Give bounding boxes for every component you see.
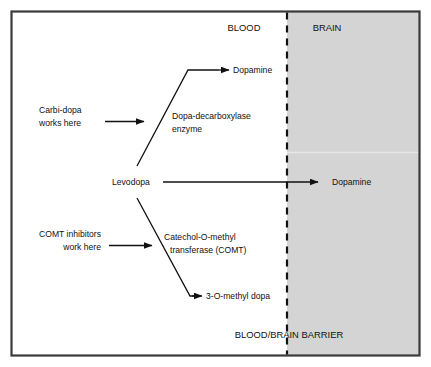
comt-inhibitors-annotation-line2: work here (62, 242, 101, 252)
pathway-diagram: BLOOD BRAIN Dopamine Carbi-dopa works he… (0, 0, 431, 367)
blood-region-label: BLOOD (228, 22, 261, 33)
comt-inhibitors-annotation-line1: COMT inhibitors (39, 229, 101, 239)
dopamine-blood-label: Dopamine (233, 65, 272, 75)
methyl-dopa-label: 3-O-methyl dopa (206, 291, 270, 301)
comt-enzyme-label-line1: Catechol-O-methyl (164, 232, 236, 242)
blood-brain-barrier-caption: BLOOD/BRAIN BARRIER (235, 329, 344, 340)
comt-enzyme-label-line2: transferase (COMT) (170, 245, 247, 255)
carbidopa-annotation-line1: Carbi-dopa (39, 105, 82, 115)
brain-region-label: BRAIN (313, 22, 342, 33)
figure-root: BLOOD BRAIN Dopamine Carbi-dopa works he… (0, 0, 431, 367)
levodopa-label: Levodopa (112, 177, 150, 187)
decarboxylase-enzyme-label-line2: enzyme (172, 124, 202, 134)
dopamine-brain-label: Dopamine (332, 177, 371, 187)
decarboxylase-enzyme-label-line1: Dopa-decarboxylase (172, 111, 251, 121)
carbidopa-annotation-line2: works here (38, 118, 81, 128)
